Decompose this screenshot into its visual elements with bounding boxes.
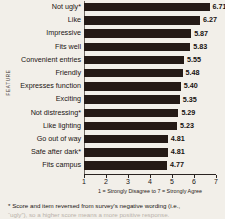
footnote: * Score and item reversed from survey's … [8, 202, 220, 219]
bar-row: Go out of way4.81 [0, 133, 225, 146]
bar-row: Fits campus4.77 [0, 159, 225, 172]
bar-value-label: 4.81 [171, 147, 185, 156]
bar-fill [84, 95, 180, 103]
bar-row: Convenient entries5.55 [0, 54, 225, 67]
bar-category-label: Friendly [0, 68, 81, 77]
bar-track [84, 161, 216, 169]
bar-category-label: Like lighting [0, 121, 81, 130]
bar-row: Like6.27 [0, 14, 225, 27]
bar-category-label: Fits campus [0, 160, 81, 169]
bar-value-label: 4.81 [171, 134, 185, 143]
bar-track [84, 122, 216, 130]
bar-value-label: 4.77 [170, 160, 184, 169]
plot-area: FEATURE Not ugly*6.71Like6.27Impressive5… [0, 0, 225, 178]
bar-value-label: 5.23 [180, 121, 194, 130]
bar-fill [84, 56, 184, 64]
bar-value-label: 6.71 [213, 2, 225, 11]
bar-value-label: 5.40 [184, 81, 198, 90]
footnote-line-2: “ugly”), so a higher score means a more … [8, 211, 220, 219]
bar-fill [84, 43, 190, 51]
bar-fill [84, 69, 183, 77]
bar-fill [84, 148, 168, 156]
bar-fill [84, 29, 191, 37]
bar-row: Like lighting5.23 [0, 120, 225, 133]
bar-fill [84, 109, 178, 117]
bar-track [84, 109, 216, 117]
x-tick-label: 3 [121, 178, 135, 185]
bar-fill [84, 82, 181, 90]
bar-value-label: 5.87 [194, 29, 208, 38]
bar-fill [84, 161, 167, 169]
bar-category-label: Fits well [0, 42, 81, 51]
bar-value-label: 5.29 [181, 108, 195, 117]
bar-fill [84, 16, 200, 24]
footnote-line-1: * Score and item reversed from survey's … [8, 202, 220, 211]
bar-category-label: Not distressing* [0, 108, 81, 117]
x-axis-caption: 1 = Strongly Disagree to 7 = Strongly Ag… [84, 188, 216, 194]
x-tick-label: 6 [187, 178, 201, 185]
bar-track [84, 16, 216, 24]
bar-value-label: 6.27 [203, 15, 217, 24]
bar-track [84, 148, 216, 156]
x-tick-label: 7 [209, 178, 223, 185]
x-tick-label: 5 [165, 178, 179, 185]
bar-chart-figure: FEATURE Not ugly*6.71Like6.27Impressive5… [0, 0, 225, 219]
bar-value-label: 5.83 [193, 42, 207, 51]
bar-category-label: Exciting [0, 94, 81, 103]
bar-row: Not ugly*6.71 [0, 1, 225, 14]
bar-category-label: Convenient entries [0, 55, 81, 64]
bar-row: Expresses function5.40 [0, 80, 225, 93]
bar-row: Fits well5.83 [0, 41, 225, 54]
bar-row: Friendly5.48 [0, 67, 225, 80]
bar-track [84, 135, 216, 143]
bar-category-label: Impressive [0, 28, 81, 37]
bar-row: Impressive5.87 [0, 27, 225, 40]
bar-category-label: Like [0, 15, 81, 24]
bar-value-label: 5.35 [183, 95, 197, 104]
bar-value-label: 5.48 [186, 68, 200, 77]
bar-fill [84, 3, 210, 11]
bar-row: Not distressing*5.29 [0, 107, 225, 120]
x-tick-label: 1 [77, 178, 91, 185]
bar-fill [84, 122, 177, 130]
bar-fill [84, 135, 168, 143]
x-tick-label: 4 [143, 178, 157, 185]
x-tick-label: 2 [99, 178, 113, 185]
bar-track [84, 3, 216, 11]
bar-row: Exciting5.35 [0, 93, 225, 106]
bar-category-label: Safe after dark* [0, 147, 81, 156]
bar-category-label: Not ugly* [0, 2, 81, 11]
bar-category-label: Expresses function [0, 81, 81, 90]
bar-value-label: 5.55 [187, 55, 201, 64]
bar-rows: Not ugly*6.71Like6.27Impressive5.87Fits … [0, 1, 225, 172]
bar-row: Safe after dark*4.81 [0, 146, 225, 159]
bar-category-label: Go out of way [0, 134, 81, 143]
